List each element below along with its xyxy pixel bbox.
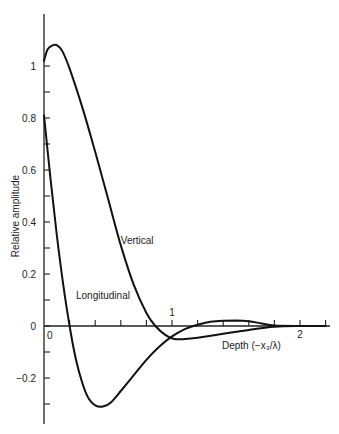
y-tick-label: 0.6 [22,165,36,176]
y-axis-title: Relative amplitude [10,174,21,257]
y-tick-label: 0.4 [22,217,36,228]
label-longitudinal: Longitudinal [76,290,130,301]
label-vertical: Vertical [121,235,154,246]
x-tick-label: 2 [297,329,303,340]
curves [44,45,326,407]
x-axis-title: Depth (−x₃/λ) [222,340,281,351]
axis-ticks [44,66,326,404]
amplitude-depth-chart: 10.80.60.40.20−0.2012 VerticalLongitudin… [0,0,339,434]
y-tick-label: 0.2 [22,269,36,280]
y-tick-label: 0.8 [22,113,36,124]
y-tick-label: 1 [30,61,36,72]
x-tick-label: 0 [47,330,53,341]
y-tick-label: 0 [30,321,36,332]
axes [44,14,330,424]
x-tick-label: 1 [169,307,175,318]
axis-tick-labels: 10.80.60.40.20−0.2012 [16,61,303,384]
y-tick-label: −0.2 [16,373,36,384]
curve-longitudinal [44,115,326,406]
curve-annotations: VerticalLongitudinal [76,235,154,301]
